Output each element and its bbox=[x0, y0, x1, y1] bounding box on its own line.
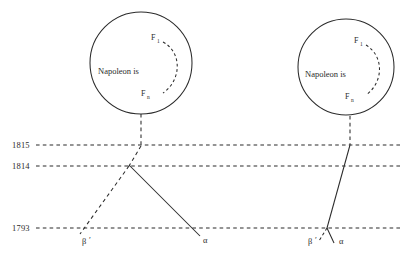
right-circle-body-text: Napoleon is bbox=[305, 69, 346, 79]
svg-text:n: n bbox=[351, 97, 354, 103]
svg-text:F: F bbox=[151, 33, 156, 42]
left-alpha-label: α bbox=[203, 235, 208, 245]
svg-text:F: F bbox=[354, 36, 359, 45]
right-beta-leg bbox=[319, 228, 327, 241]
left-alpha-leg bbox=[129, 165, 200, 236]
left-stem-to-vertex bbox=[129, 146, 141, 166]
timeline-labels: 1815 1814 1793 bbox=[12, 140, 30, 233]
svg-text:n: n bbox=[147, 94, 150, 100]
left-beta-leg bbox=[80, 166, 129, 234]
year-label-1793: 1793 bbox=[12, 223, 30, 233]
right-circle-group: Napoleon is F 1 F n bbox=[298, 19, 394, 115]
right-beta-label: β ′ bbox=[308, 235, 317, 246]
svg-text:α: α bbox=[339, 236, 344, 246]
branch-label-group: β ′ α β ′ α bbox=[82, 235, 344, 246]
diagram-canvas: 1815 1814 1793 bbox=[0, 0, 412, 260]
year-label-1814: 1814 bbox=[12, 161, 30, 171]
svg-text:β: β bbox=[82, 236, 86, 246]
svg-text:β: β bbox=[308, 236, 312, 246]
right-alpha-label: α bbox=[339, 236, 344, 246]
left-branch-group bbox=[80, 114, 200, 236]
svg-text:F: F bbox=[141, 89, 146, 98]
svg-text:α: α bbox=[203, 235, 208, 245]
timeline-axes bbox=[36, 145, 400, 228]
svg-text:1: 1 bbox=[157, 38, 160, 44]
diagram-svg: 1815 1814 1793 bbox=[0, 0, 412, 260]
year-label-1815: 1815 bbox=[12, 140, 30, 150]
right-branch-group bbox=[319, 116, 350, 243]
left-circle-group: Napoleon is F 1 F n bbox=[90, 12, 192, 114]
right-alpha-leg-lower bbox=[327, 228, 334, 243]
left-beta-prime: ′ bbox=[89, 235, 91, 245]
left-circle-outline bbox=[90, 12, 192, 114]
right-alpha-leg bbox=[327, 145, 350, 228]
left-beta-label: β ′ bbox=[82, 235, 91, 246]
right-beta-prime: ′ bbox=[315, 235, 317, 245]
left-circle-body-text: Napoleon is bbox=[98, 66, 139, 76]
svg-text:F: F bbox=[345, 92, 350, 101]
svg-text:1: 1 bbox=[360, 41, 363, 47]
